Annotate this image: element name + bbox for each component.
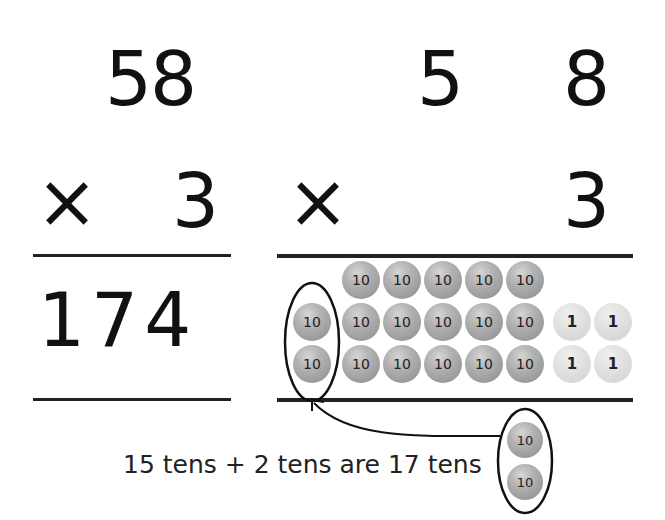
- regroup-arrow: [314, 403, 500, 436]
- left-circled-group-ellipse: [285, 283, 339, 401]
- annotation-overlay: [0, 0, 665, 520]
- bottom-circled-group-ellipse: [498, 409, 552, 513]
- regroup-caption: 15 tens + 2 tens are 17 tens: [123, 450, 482, 479]
